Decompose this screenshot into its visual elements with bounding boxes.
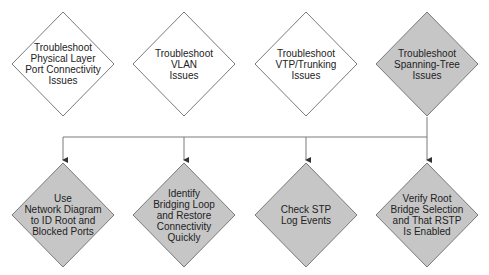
- decision-spanning-tree: Troubleshoot Spanning-Tree Issues: [375, 11, 479, 117]
- node-label: Use Network Diagram to ID Root and Block…: [11, 162, 115, 268]
- node-label: Identify Bridging Loop and Restore Conne…: [132, 162, 236, 268]
- node-label: Troubleshoot Physical Layer Port Connect…: [11, 11, 115, 117]
- step-network-diagram: Use Network Diagram to ID Root and Block…: [11, 162, 115, 268]
- decision-vlan: Troubleshoot VLAN Issues: [132, 11, 236, 117]
- step-verify-root-bridge: Verify Root Bridge Selection and That RS…: [375, 162, 479, 268]
- step-bridging-loop: Identify Bridging Loop and Restore Conne…: [132, 162, 236, 268]
- node-label: Troubleshoot VTP/Trunking Issues: [254, 11, 358, 117]
- decision-vtp-trunking: Troubleshoot VTP/Trunking Issues: [254, 11, 358, 117]
- node-label: Troubleshoot VLAN Issues: [132, 11, 236, 117]
- node-label: Check STP Log Events: [254, 162, 358, 268]
- step-stp-log-events: Check STP Log Events: [254, 162, 358, 268]
- decision-physical-layer: Troubleshoot Physical Layer Port Connect…: [11, 11, 115, 117]
- node-label: Troubleshoot Spanning-Tree Issues: [375, 11, 479, 117]
- node-label: Verify Root Bridge Selection and That RS…: [375, 162, 479, 268]
